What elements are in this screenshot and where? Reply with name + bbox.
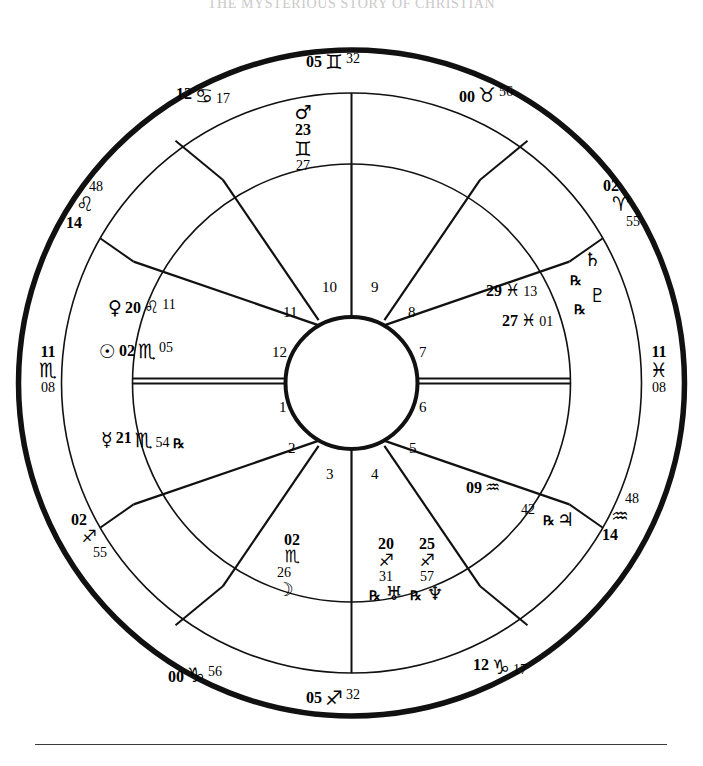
cusp-label-8: 02 ♈ 55 <box>592 178 650 229</box>
footer-divider <box>35 744 667 745</box>
aries-icon: ♈ <box>592 194 650 214</box>
cusp-label-10: 05 ♊ 32 <box>306 52 360 72</box>
house-number-5: 5 <box>409 441 417 456</box>
house-number-8: 8 <box>408 305 416 320</box>
planet-moon: 02 ♏ 26 ☽ <box>265 532 319 599</box>
moon-icon: ☽ <box>276 578 293 600</box>
planet-jupiter: 09 ♒ <box>466 479 500 496</box>
venus-icon: ♀ <box>108 298 122 317</box>
cancer-icon: ♋ <box>195 86 213 106</box>
sagittarius-icon: ♐ <box>325 688 343 708</box>
planet-saturn: 29 ♓ 13 <box>486 282 537 299</box>
jupiter-icon: ♃ <box>557 510 574 529</box>
sagittarius-icon: ♐ <box>378 550 393 570</box>
cusp-label-1-ascendant: 11 ♏ 08 <box>26 344 70 395</box>
jupiter-retrograde-icon: ℞ <box>543 514 555 527</box>
capricorn-icon: ♑ <box>492 657 510 677</box>
pisces-icon: ♓ <box>521 312 536 329</box>
gemini-icon: ♊ <box>268 139 338 159</box>
cusp-label-2: 02 ♐ 55 <box>62 512 116 560</box>
scorpio-icon: ♏ <box>26 360 70 380</box>
house-number-9: 9 <box>371 280 379 295</box>
planet-neptune: 25 ♐ 57 ℞ ♆ <box>403 536 451 603</box>
cusp-label-6: 48 ♒ 14 <box>592 492 648 543</box>
cusp-label-4-imum-coeli: 05 ♐ 32 <box>306 688 360 708</box>
neptune-retrograde-icon: ℞ <box>410 588 422 603</box>
sagittarius-icon: ♐ <box>419 550 434 570</box>
planet-pluto: 27 ♓ 01 <box>502 312 553 329</box>
cusp-label-9: 00 ♉ 56 <box>459 85 513 105</box>
jupiter-minute: 42 <box>521 503 535 517</box>
scorpio-icon: ♏ <box>135 430 153 450</box>
taurus-icon: ♉ <box>478 85 496 105</box>
pluto-icon: ♇ <box>589 286 606 305</box>
uranus-icon: ♅ <box>385 582 402 604</box>
cusp-label-5: 12 ♑ 17 <box>473 657 527 677</box>
scorpio-icon: ♏ <box>284 546 299 566</box>
pisces-icon: ♓ <box>637 360 681 380</box>
planet-venus: ♀ 20 ♌ 11 <box>108 298 176 317</box>
cusp-label-11: 12 ♋ 17 <box>176 86 230 106</box>
center-circle <box>286 317 418 449</box>
aquarius-icon: ♒ <box>485 479 500 496</box>
house-number-7: 7 <box>419 345 427 360</box>
saturn-retrograde-icon: ℞ <box>570 274 582 287</box>
horoscope-wheel <box>0 0 703 766</box>
aquarius-icon: ♒ <box>592 506 648 526</box>
planet-mars: ♂ 23 ♊ 27 <box>268 103 338 173</box>
house-number-10: 10 <box>322 280 337 295</box>
cusp-label-7-descendant: 11 ♓ 08 <box>637 344 681 395</box>
scorpio-icon: ♏ <box>138 341 156 361</box>
leo-icon: ♌ <box>144 299 159 316</box>
cusp-label-3: 00 ♑ 56 <box>168 665 222 685</box>
neptune-icon: ♆ <box>426 582 443 604</box>
libra-icon: ♐ <box>81 526 96 546</box>
house-number-3: 3 <box>326 467 334 482</box>
house-cusp-lines <box>133 164 571 602</box>
scorpio-icon: ♑ <box>187 665 205 685</box>
house-number-1: 1 <box>279 400 287 415</box>
cusp-label-12: 48 ♌ 14 <box>56 180 114 231</box>
saturn-icon: ♄ <box>584 250 601 269</box>
house-number-2: 2 <box>288 441 296 456</box>
house-number-11: 11 <box>283 305 297 320</box>
house-number-6: 6 <box>419 400 427 415</box>
house-number-4: 4 <box>371 467 379 482</box>
uranus-retrograde-icon: ℞ <box>369 588 381 603</box>
leo-icon: ♌ <box>56 194 114 214</box>
mercury-retrograde-icon: ℞ <box>173 437 185 450</box>
planet-sun: ☉ 02 ♏ 05 <box>99 341 173 361</box>
gemini-icon: ♊ <box>325 52 343 72</box>
planet-mercury: ☿ 21 ♏ 54 ℞ <box>101 430 185 450</box>
pisces-icon: ♓ <box>505 282 520 299</box>
mercury-icon: ☿ <box>101 430 113 449</box>
mars-icon: ♂ <box>294 101 311 123</box>
pluto-retrograde-icon: ℞ <box>574 303 586 316</box>
sun-icon: ☉ <box>99 342 116 361</box>
planet-uranus: 20 ♐ 31 ℞ ♅ <box>362 536 410 603</box>
house-number-12: 12 <box>272 345 287 360</box>
